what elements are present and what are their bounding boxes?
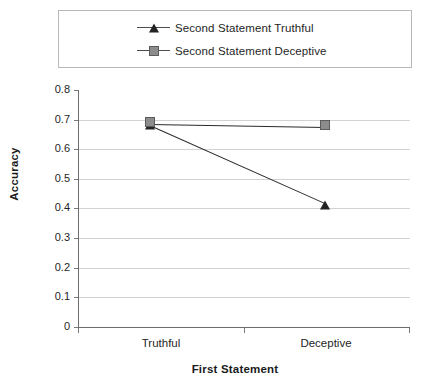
y-axis-title: Accuracy [8, 114, 20, 234]
ytick-label-0-3: 0.3 [36, 231, 70, 243]
ytick-label-0-7: 0.7 [36, 113, 70, 125]
ytick-label-0-4: 0.4 [36, 201, 70, 213]
xtick-mark-right [409, 328, 410, 333]
xtick-mark-left [78, 328, 79, 333]
gridline-0-7 [79, 120, 410, 121]
chart-plot-area: Accuracy 0.8 0.7 0.6 0.5 0.4 0.3 0.2 0.1… [0, 0, 428, 387]
datapoint-deceptive-deceptive [320, 120, 330, 130]
datapoint-deceptive-truthful [145, 117, 155, 127]
ytick-label-0: 0 [36, 320, 70, 332]
gridline-0-3 [79, 238, 410, 239]
y-axis-line [78, 90, 79, 328]
xtick-label-deceptive: Deceptive [266, 337, 386, 349]
series-line-truthful [150, 125, 325, 204]
ytick-label-0-5: 0.5 [36, 172, 70, 184]
x-axis-title: First Statement [60, 363, 410, 375]
gridline-0-6 [79, 149, 410, 150]
gridline-0-2 [79, 268, 410, 269]
gridline-0-1 [79, 297, 410, 298]
gridline-0-4 [79, 208, 410, 209]
ytick-label-0-1: 0.1 [36, 290, 70, 302]
series-line-deceptive [150, 124, 325, 128]
xtick-label-truthful: Truthful [101, 337, 221, 349]
ytick-label-0-8: 0.8 [36, 83, 70, 95]
datapoint-truthful-deceptive [320, 200, 330, 209]
xtick-mark-center [244, 328, 245, 333]
ytick-label-0-2: 0.2 [36, 261, 70, 273]
gridline-0-5 [79, 179, 410, 180]
ytick-label-0-6: 0.6 [36, 142, 70, 154]
